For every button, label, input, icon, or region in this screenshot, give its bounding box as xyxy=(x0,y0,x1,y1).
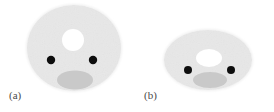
panel-b-mouth xyxy=(193,72,227,88)
panel-a-mouth xyxy=(57,71,93,90)
figure-canvas xyxy=(0,0,274,112)
panel-b xyxy=(163,29,253,91)
panel-a-hole xyxy=(62,29,84,51)
figure-container: (a) (b) xyxy=(0,0,274,112)
panel-a xyxy=(26,4,122,92)
panel-b-dot-left xyxy=(184,66,192,74)
panel-a-caption: (a) xyxy=(9,89,21,101)
panel-a-dot-right xyxy=(89,56,97,64)
panel-a-dot-left xyxy=(47,56,55,64)
panel-b-caption: (b) xyxy=(144,89,157,101)
panel-b-dot-right xyxy=(227,66,235,74)
panel-b-hole xyxy=(196,49,222,67)
